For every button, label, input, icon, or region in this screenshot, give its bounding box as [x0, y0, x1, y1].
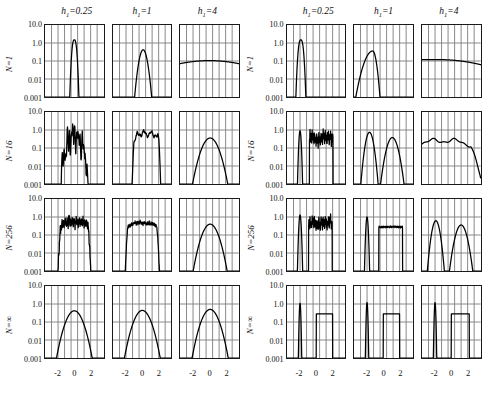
plot-box	[421, 24, 482, 98]
y-axis-label-block-2: 10.01.00.10.010.001	[256, 194, 286, 281]
plot-cell-right-r1-c2	[421, 107, 482, 194]
y-tick-label: 1.0	[274, 38, 284, 47]
x-tick-label: 2	[331, 368, 335, 378]
plot-cell-left-r1-c1	[112, 107, 173, 194]
y-tick-label: 0.1	[32, 144, 42, 153]
y-tick-label: 0.001	[266, 268, 284, 277]
y-tick-label: 0.001	[24, 355, 42, 364]
plot-box	[353, 285, 414, 359]
x-tick-label: 2	[89, 368, 93, 378]
plot-cell-left-r1-c2	[179, 107, 240, 194]
x-tick-label: -2	[189, 368, 196, 378]
plot-box	[112, 24, 173, 98]
x-tick-label: 0	[140, 368, 144, 378]
plot-cell-left-r0-c0	[44, 20, 105, 107]
x-tick-label: 2	[224, 368, 228, 378]
x-axis-label-cell-1: -202	[112, 368, 173, 382]
plot-box	[179, 24, 240, 98]
plot-box	[44, 24, 105, 98]
plot-cell-left-r3-c2	[179, 281, 240, 368]
plot-box	[179, 111, 240, 185]
plot-box	[44, 198, 105, 272]
y-tick-label: 10.0	[270, 194, 284, 203]
y-axis-labels: 10.01.00.10.010.00110.01.00.10.010.00110…	[256, 20, 286, 368]
plot-cell-left-r2-c2	[179, 194, 240, 281]
x-tick-label: -2	[54, 368, 61, 378]
x-tick-label: 2	[398, 368, 402, 378]
x-axis-labels: -202-202-202	[286, 368, 482, 382]
x-axis-label-cell-2: -202	[421, 368, 482, 382]
plot-row-3	[286, 281, 482, 368]
plot-box	[44, 111, 105, 185]
plot-row-2	[44, 194, 240, 281]
plot-cell-right-r0-c1	[353, 20, 414, 107]
plot-box	[421, 285, 482, 359]
plot-box	[179, 285, 240, 359]
y-tick-label: 10.0	[270, 20, 284, 29]
y-tick-label: 10.0	[270, 281, 284, 290]
y-axis-label-block-3: 10.01.00.10.010.001	[256, 281, 286, 368]
plot-box	[112, 285, 173, 359]
plot-cell-left-r1-c0	[44, 107, 105, 194]
y-tick-label: 10.0	[28, 20, 42, 29]
y-tick-label: 10.0	[270, 107, 284, 116]
plot-cell-right-r0-c0	[286, 20, 347, 107]
plot-box	[286, 198, 347, 272]
plot-cell-right-r1-c0	[286, 107, 347, 194]
y-tick-label: 0.01	[270, 336, 284, 345]
x-tick-label: 0	[449, 368, 453, 378]
y-tick-label: 1.0	[274, 299, 284, 308]
x-tick-label: 0	[208, 368, 212, 378]
y-axis-label-block-3: 10.01.00.10.010.001	[14, 281, 44, 368]
y-tick-label: 0.001	[24, 181, 42, 190]
y-tick-label: 1.0	[274, 212, 284, 221]
x-tick-label: -2	[122, 368, 129, 378]
y-tick-label: 0.01	[28, 162, 42, 171]
plot-cell-right-r2-c1	[353, 194, 414, 281]
column-headers: h1=0.25h1=1h1=4	[286, 4, 482, 20]
y-tick-label: 0.01	[28, 336, 42, 345]
y-tick-label: 0.01	[270, 162, 284, 171]
y-tick-label: 0.01	[28, 249, 42, 258]
plot-box	[353, 111, 414, 185]
x-axis-label-cell-0: -202	[44, 368, 105, 382]
plot-box	[286, 111, 347, 185]
plot-cell-left-r2-c0	[44, 194, 105, 281]
y-tick-label: 1.0	[32, 212, 42, 221]
y-tick-label: 0.01	[28, 75, 42, 84]
y-axis-label-block-0: 10.01.00.10.010.001	[14, 20, 44, 107]
x-tick-label: -2	[431, 368, 438, 378]
panel-group-right: h1=0.25h1=1h1=4N=1N=16N=256N=∞10.01.00.1…	[242, 0, 483, 395]
plot-box	[44, 285, 105, 359]
x-tick-label: 0	[72, 368, 76, 378]
plot-cell-right-r1-c1	[353, 107, 414, 194]
plot-row-3	[44, 281, 240, 368]
plot-cell-right-r3-c2	[421, 281, 482, 368]
y-tick-label: 1.0	[32, 125, 42, 134]
plot-box	[353, 198, 414, 272]
x-axis-label-cell-2: -202	[179, 368, 240, 382]
plot-cell-left-r3-c1	[112, 281, 173, 368]
plot-box	[112, 111, 173, 185]
y-tick-label: 0.001	[266, 94, 284, 103]
plot-row-0	[286, 20, 482, 107]
y-tick-label: 0.001	[24, 94, 42, 103]
y-tick-label: 0.1	[32, 57, 42, 66]
y-tick-label: 0.1	[274, 231, 284, 240]
y-axis-label-block-1: 10.01.00.10.010.001	[14, 107, 44, 194]
plot-row-2	[286, 194, 482, 281]
y-tick-label: 10.0	[28, 194, 42, 203]
plot-grid	[286, 20, 482, 368]
y-tick-label: 0.1	[274, 318, 284, 327]
y-tick-label: 0.1	[274, 144, 284, 153]
y-axis-labels: 10.01.00.10.010.00110.01.00.10.010.00110…	[14, 20, 44, 368]
y-tick-label: 10.0	[28, 281, 42, 290]
x-tick-label: -2	[363, 368, 370, 378]
plot-cell-left-r0-c2	[179, 20, 240, 107]
plot-box	[353, 24, 414, 98]
plot-cell-left-r0-c1	[112, 20, 173, 107]
y-tick-label: 0.1	[32, 231, 42, 240]
x-axis-label-cell-1: -202	[353, 368, 414, 382]
y-tick-label: 10.0	[28, 107, 42, 116]
y-tick-label: 1.0	[32, 38, 42, 47]
